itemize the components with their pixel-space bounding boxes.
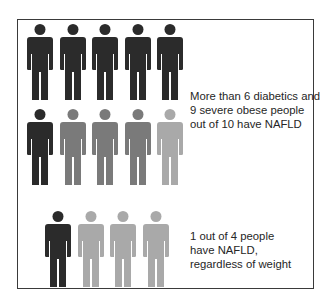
person-icon <box>45 211 71 287</box>
person-icon <box>157 109 183 185</box>
caption-general-population: 1 out of 4 people have NAFLD, regardless… <box>190 229 291 271</box>
person-icon <box>92 109 118 185</box>
caption-line: have NAFLD, <box>190 243 291 257</box>
person-icon <box>27 24 53 100</box>
person-icon <box>27 109 53 185</box>
person-icon <box>60 24 86 100</box>
caption-line: regardless of weight <box>190 257 291 271</box>
caption-line: 1 out of 4 people <box>190 229 291 243</box>
caption-line: 9 severe obese people <box>190 103 320 117</box>
person-icon <box>157 24 183 100</box>
caption-line: out of 10 have NAFLD <box>190 117 320 131</box>
person-icon <box>143 211 169 287</box>
person-icon <box>110 211 136 287</box>
person-icon <box>78 211 104 287</box>
person-icon <box>125 109 151 185</box>
person-icon <box>92 24 118 100</box>
person-icon <box>125 24 151 100</box>
caption-line: More than 6 diabetics and <box>190 89 320 103</box>
caption-diabetics-obese: More than 6 diabetics and 9 severe obese… <box>190 89 320 131</box>
person-icon <box>60 109 86 185</box>
